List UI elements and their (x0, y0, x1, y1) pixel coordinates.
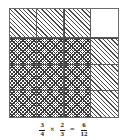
area-model-grid (9, 8, 119, 118)
grid-cell-r2c2 (37, 38, 64, 64)
grid-cell-r2c1 (10, 38, 37, 64)
grid-cell-r1c2 (37, 9, 64, 38)
product-denominator: 12 (80, 131, 89, 139)
grid-cell-r3c1 (10, 65, 37, 91)
grid-cell-r3c2 (37, 65, 64, 91)
factor-b-fraction: 2 3 (60, 122, 66, 138)
factor-b-denominator: 3 (60, 131, 66, 139)
multiplication-symbol: × (49, 126, 56, 134)
grid-cell-r2c4 (91, 38, 118, 64)
equals-symbol: = (69, 126, 76, 134)
grid-cell-r4c1 (10, 91, 37, 117)
grid-cell-r3c3 (64, 65, 91, 91)
factor-a-fraction: 3 4 (39, 122, 45, 138)
grid-cell-r4c4 (91, 91, 118, 117)
grid-cell-r4c3 (64, 91, 91, 117)
grid-cell-r4c2 (37, 91, 64, 117)
grid-cell-r1c4 (91, 9, 118, 38)
grid-cell-r3c4 (91, 65, 118, 91)
factor-a-denominator: 4 (39, 131, 45, 139)
fraction-equation: 3 4 × 2 3 = 6 12 (0, 120, 128, 140)
fraction-area-model-figure: 3 4 × 2 3 = 6 12 (0, 0, 128, 140)
grid-cell-r2c3 (64, 38, 91, 64)
product-fraction: 6 12 (80, 122, 89, 138)
grid-cell-r1c3 (64, 9, 91, 38)
grid-cell-r1c1 (10, 9, 37, 38)
grid-cells (10, 9, 118, 117)
